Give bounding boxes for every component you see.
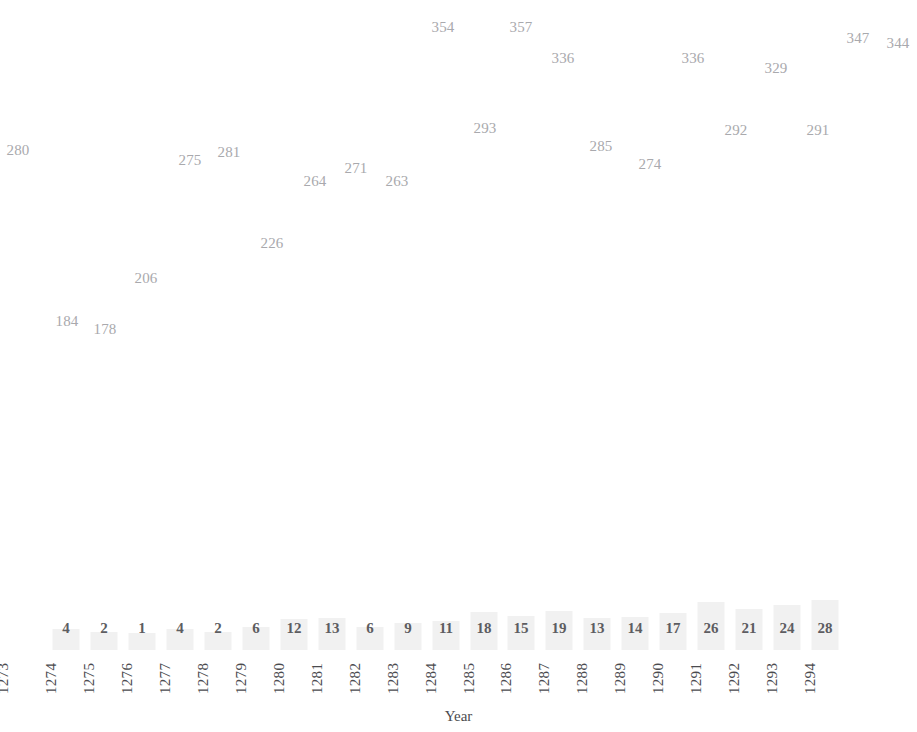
x-axis-tick-label: 1289: [613, 663, 628, 694]
value-label: 329: [764, 61, 787, 76]
chart-plot-area: 2801841782062752812262642712633543572933…: [0, 0, 917, 732]
value-label: 263: [385, 174, 408, 189]
x-axis-tick-label: 1275: [82, 663, 97, 694]
count-label: 15: [514, 620, 529, 636]
value-label: 271: [344, 161, 367, 176]
count-label: 19: [552, 620, 567, 636]
x-axis-tick-label: 1283: [386, 663, 401, 694]
x-axis-tick-label: 1293: [765, 663, 780, 694]
x-axis-tick-label: 1277: [158, 663, 173, 694]
count-label: 18: [477, 620, 492, 636]
x-axis-tick-label: 1294: [803, 663, 818, 694]
value-label: 178: [93, 322, 116, 337]
count-label: 14: [628, 620, 643, 636]
count-label: 2: [100, 620, 108, 636]
value-label: 336: [551, 51, 574, 66]
count-label: 6: [252, 620, 260, 636]
x-axis-tick-label: 1292: [727, 663, 742, 694]
x-axis-tick-label: 1279: [234, 663, 249, 694]
value-label: 274: [638, 157, 661, 172]
x-axis-tick-label: 1288: [575, 663, 590, 694]
x-axis-tick-label: 1290: [651, 663, 666, 694]
x-axis-tick-label: 1278: [196, 663, 211, 694]
value-label: 357: [509, 20, 532, 35]
value-label: 264: [303, 174, 326, 189]
value-label: 336: [681, 51, 704, 66]
count-label: 21: [742, 620, 757, 636]
value-label: 292: [724, 123, 747, 138]
value-label: 275: [178, 153, 201, 168]
value-label: 280: [6, 143, 29, 158]
x-axis-tick-label: 1287: [537, 663, 552, 694]
count-label: 13: [590, 620, 605, 636]
count-label: 1: [138, 620, 146, 636]
x-axis-title: Year: [0, 708, 917, 725]
count-label: 6: [366, 620, 374, 636]
value-label: 226: [260, 236, 283, 251]
value-label: 281: [217, 145, 240, 160]
x-axis-tick-label: 1285: [462, 663, 477, 694]
value-label: 206: [134, 271, 157, 286]
value-label: 285: [589, 139, 612, 154]
value-label: 354: [431, 20, 454, 35]
x-axis-tick-label: 1276: [120, 663, 135, 694]
value-label: 293: [473, 121, 496, 136]
x-axis-tick-label: 1286: [499, 663, 514, 694]
count-label: 9: [404, 620, 412, 636]
count-label: 4: [62, 620, 70, 636]
x-axis-tick-label: 1281: [310, 663, 325, 694]
x-axis-tick-label: 1274: [44, 663, 59, 694]
x-axis-tick-label: 1282: [348, 663, 363, 694]
count-label: 28: [818, 620, 833, 636]
x-axis-tick-label: 1284: [424, 663, 439, 694]
count-label: 4: [176, 620, 184, 636]
x-axis-tick-label: 1291: [689, 663, 704, 694]
value-label: 291: [806, 123, 829, 138]
count-label: 11: [439, 620, 453, 636]
x-axis-tick-label: 1280: [272, 663, 287, 694]
x-axis-tick-label: 1273: [0, 663, 11, 694]
value-label: 347: [846, 31, 869, 46]
count-label: 26: [704, 620, 719, 636]
count-label: 13: [325, 620, 340, 636]
count-label: 12: [287, 620, 302, 636]
count-label: 2: [214, 620, 222, 636]
value-label: 184: [55, 314, 78, 329]
count-label: 24: [780, 620, 795, 636]
value-label: 344: [886, 36, 909, 51]
count-label: 17: [666, 620, 681, 636]
